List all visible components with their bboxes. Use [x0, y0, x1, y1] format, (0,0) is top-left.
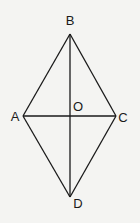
side-cd: [70, 116, 116, 197]
side-ab: [23, 34, 70, 116]
center-label-o: O: [73, 99, 83, 114]
side-da: [23, 116, 70, 197]
vertex-label-c: C: [118, 110, 127, 125]
labels: B A C D O: [11, 13, 128, 211]
vertex-label-d: D: [73, 196, 82, 211]
vertex-label-b: B: [66, 13, 75, 28]
rhombus-diagram: B A C D O: [0, 0, 140, 223]
diagonals: [23, 34, 116, 197]
vertex-label-a: A: [11, 109, 20, 124]
